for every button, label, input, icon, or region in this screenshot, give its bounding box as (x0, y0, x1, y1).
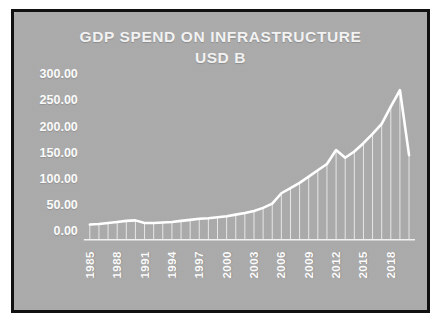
series-line-gdp-spend (90, 90, 409, 225)
chart-plot-area (14, 12, 427, 310)
chart-figure: GDP SPEND ON INFRASTRUCTURE USD B 300.00… (0, 0, 440, 323)
chart-border: GDP SPEND ON INFRASTRUCTURE USD B 300.00… (11, 9, 430, 313)
category-drop-lines (90, 90, 409, 240)
